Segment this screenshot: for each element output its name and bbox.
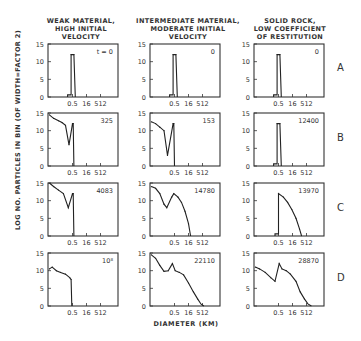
svg-text:0.5: 0.5 [273, 100, 283, 108]
svg-text:0.5: 0.5 [67, 309, 77, 317]
svg-text:10: 10 [36, 58, 44, 66]
svg-text:10: 10 [242, 197, 250, 205]
svg-text:0: 0 [246, 163, 250, 171]
svg-text:512: 512 [300, 100, 312, 108]
svg-text:16: 16 [288, 100, 296, 108]
panel-A-2: 0510150.5165120 [242, 41, 324, 109]
svg-text:4083: 4083 [96, 187, 113, 195]
svg-text:512: 512 [196, 100, 208, 108]
svg-text:15: 15 [242, 180, 250, 188]
svg-text:16: 16 [288, 239, 296, 247]
svg-text:10⁸: 10⁸ [102, 257, 113, 265]
panel-A-0: 0510150.516512t = 0 [36, 41, 118, 109]
svg-text:5: 5 [246, 76, 250, 84]
svg-text:0.5: 0.5 [169, 169, 179, 177]
svg-text:5: 5 [142, 285, 146, 293]
panel-D-1: 0510150.51651222110 [138, 250, 220, 318]
svg-text:10: 10 [138, 197, 146, 205]
svg-text:5: 5 [142, 76, 146, 84]
svg-text:15: 15 [36, 250, 44, 258]
panel-D-0: 0510150.51651210⁸ [36, 250, 118, 318]
svg-text:0: 0 [40, 94, 44, 102]
svg-text:10: 10 [138, 267, 146, 275]
svg-text:512: 512 [300, 169, 312, 177]
svg-text:512: 512 [94, 100, 106, 108]
svg-text:0: 0 [142, 233, 146, 241]
svg-text:325: 325 [101, 117, 113, 125]
svg-text:0: 0 [40, 163, 44, 171]
svg-text:0: 0 [40, 303, 44, 311]
svg-text:0: 0 [315, 48, 319, 56]
svg-text:512: 512 [196, 239, 208, 247]
panel-B-2: 0510150.51651212400 [242, 110, 324, 178]
svg-text:512: 512 [94, 309, 106, 317]
svg-text:16: 16 [82, 169, 90, 177]
svg-text:0.5: 0.5 [67, 100, 77, 108]
svg-text:0.5: 0.5 [67, 169, 77, 177]
svg-text:0.5: 0.5 [169, 100, 179, 108]
svg-text:10: 10 [36, 197, 44, 205]
svg-text:5: 5 [40, 285, 44, 293]
svg-text:16: 16 [82, 100, 90, 108]
svg-text:5: 5 [142, 215, 146, 223]
panel-C-1: 0510150.51651214780 [138, 180, 220, 248]
svg-text:15: 15 [138, 41, 146, 49]
panel-A-1: 0510150.5165120 [138, 41, 220, 109]
svg-text:15: 15 [138, 180, 146, 188]
svg-text:512: 512 [300, 239, 312, 247]
panel-C-2: 0510150.51651213970 [242, 180, 324, 248]
svg-text:0: 0 [246, 94, 250, 102]
svg-text:14780: 14780 [194, 187, 215, 195]
svg-text:5: 5 [40, 76, 44, 84]
svg-text:t = 0: t = 0 [97, 48, 113, 56]
svg-text:15: 15 [36, 41, 44, 49]
svg-text:28870: 28870 [298, 257, 319, 265]
svg-text:0: 0 [246, 233, 250, 241]
svg-text:10: 10 [36, 127, 44, 135]
svg-text:5: 5 [246, 285, 250, 293]
svg-text:512: 512 [196, 309, 208, 317]
svg-text:16: 16 [288, 309, 296, 317]
panel-B-1: 0510150.516512153 [138, 110, 220, 178]
svg-text:0: 0 [142, 163, 146, 171]
svg-text:15: 15 [242, 250, 250, 258]
svg-text:0.5: 0.5 [67, 239, 77, 247]
svg-text:15: 15 [242, 110, 250, 118]
svg-text:5: 5 [246, 215, 250, 223]
svg-text:5: 5 [142, 145, 146, 153]
svg-text:15: 15 [36, 180, 44, 188]
svg-text:16: 16 [288, 169, 296, 177]
svg-text:5: 5 [246, 145, 250, 153]
svg-text:0.5: 0.5 [169, 309, 179, 317]
svg-text:22110: 22110 [194, 257, 215, 265]
svg-text:10: 10 [138, 127, 146, 135]
svg-text:0: 0 [142, 94, 146, 102]
svg-text:12400: 12400 [298, 117, 319, 125]
svg-text:512: 512 [94, 239, 106, 247]
svg-text:0: 0 [142, 303, 146, 311]
panel-C-0: 0510150.5165124083 [36, 180, 118, 248]
svg-text:512: 512 [300, 309, 312, 317]
panel-B-0: 0510150.516512325 [36, 110, 118, 178]
svg-text:512: 512 [196, 169, 208, 177]
svg-text:10: 10 [138, 58, 146, 66]
svg-text:13970: 13970 [298, 187, 319, 195]
svg-text:512: 512 [94, 169, 106, 177]
panel-D-2: 0510150.51651228870 [242, 250, 324, 318]
svg-text:16: 16 [82, 239, 90, 247]
svg-text:15: 15 [36, 110, 44, 118]
svg-text:0.5: 0.5 [273, 309, 283, 317]
svg-text:15: 15 [242, 41, 250, 49]
svg-text:16: 16 [184, 239, 192, 247]
svg-text:0: 0 [246, 303, 250, 311]
svg-text:0.5: 0.5 [169, 239, 179, 247]
svg-text:5: 5 [40, 215, 44, 223]
svg-text:0.5: 0.5 [273, 169, 283, 177]
svg-text:16: 16 [184, 100, 192, 108]
svg-text:16: 16 [184, 309, 192, 317]
svg-text:16: 16 [82, 309, 90, 317]
svg-text:0.5: 0.5 [273, 239, 283, 247]
svg-text:10: 10 [242, 58, 250, 66]
svg-text:0: 0 [211, 48, 215, 56]
svg-text:10: 10 [242, 267, 250, 275]
